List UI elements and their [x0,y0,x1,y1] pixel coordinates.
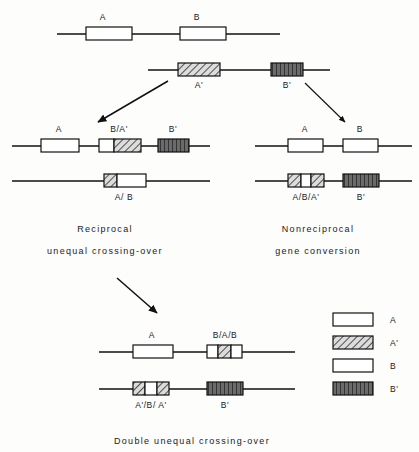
gene-box-A-B-A-prime [288,174,324,187]
gene-box-B-A-prime-B [207,345,242,358]
gene-box-B-prime [271,63,303,76]
gene-label-A: A [56,124,62,134]
branch-arrow-right [305,83,345,122]
gene-box-B [343,139,378,152]
unequal-crossing-over-diagram: A B A' B' A [0,0,419,452]
branch-arrow-left [98,81,168,122]
legend-item-B: B [333,359,396,372]
parental-chromosome-variant: A' B' [148,63,330,90]
caption-nonreciprocal-line2: gene conversion [275,246,361,256]
gene-box-A-B [104,174,146,187]
gene-box-B-prime [343,174,379,187]
caption-reciprocal-line1: Reciprocal [77,224,133,234]
gene-label-B-prime: B' [169,124,178,134]
legend-item-A: A [333,313,396,326]
double-recombinant-chromosome-1: A B/A/B [99,330,295,358]
gene-box-A [288,139,323,152]
gene-label-A: A [100,12,106,22]
gene-label-B: B [357,124,363,134]
legend-label-A-prime: A' [390,338,398,348]
branch-arrow-bottom [117,278,157,313]
legend-item-A-prime: A' [333,336,398,349]
legend-swatch-B [333,359,373,372]
gene-label-B: B [194,12,200,22]
gene-label-A-prime: A' [195,80,204,90]
gene-label-A: A [149,330,155,340]
gene-box-A-prime [178,63,220,76]
legend-label-A: A [390,315,396,325]
nonreciprocal-gene-conversion-group: A B A/B/A' B' Nonreciprocal gene convers… [255,124,412,256]
gene-box-A [86,27,132,40]
gene-box-B-prime [207,382,243,395]
gene-label-A-B-A-prime: A/B/A' [293,192,320,202]
parental-chromosome-top: A B [57,12,280,40]
gene-label-B-A-prime-B: B/A/B [213,330,238,340]
gene-label-A-B: A/ B [115,192,133,202]
double-unequal-crossing-over-group: A B/A/B A'/B/ A' B' [99,330,295,446]
gene-label-B-A-prime: B/A' [110,124,128,134]
double-recombinant-chromosome-2: A'/B/ A' B' [99,382,295,410]
gene-label-B-prime: B' [357,192,366,202]
gene-label-A-prime-B-A-prime: A'/B/ A' [135,400,167,410]
converted-chromosome-2: A/B/A' B' [255,174,412,202]
caption-double-crossing-over: Double unequal crossing-over [114,436,270,446]
converted-chromosome-1: A B [255,124,412,152]
gene-box-B [180,27,226,40]
gene-box-A-prime-B-A-prime [133,382,169,395]
gene-label-B-prime: B' [283,80,292,90]
caption-reciprocal-line2: unequal crossing-over [47,246,163,256]
gene-box-B-prime [158,139,189,152]
figure-container: A B A' B' A [0,0,419,452]
gene-label-A: A [302,124,308,134]
gene-legend: A A' B B' [333,313,398,395]
legend-label-B: B [390,361,396,371]
legend-swatch-A-prime [333,336,373,349]
caption-nonreciprocal-line1: Nonreciprocal [282,224,354,234]
recombinant-chromosome-1: A B/A' B' [12,124,210,152]
gene-label-B-prime: B' [221,400,230,410]
legend-item-B-prime: B' [333,382,398,395]
legend-swatch-B-prime [333,382,373,395]
gene-box-A [41,139,79,152]
recombinant-chromosome-2: A/ B [12,174,210,202]
gene-box-A [133,345,173,358]
legend-label-B-prime: B' [390,384,398,394]
legend-swatch-A [333,313,373,326]
reciprocal-unequal-crossing-over-group: A B/A' B' A/ B Reciprocal [12,124,210,256]
gene-box-B-A-prime [99,139,141,152]
